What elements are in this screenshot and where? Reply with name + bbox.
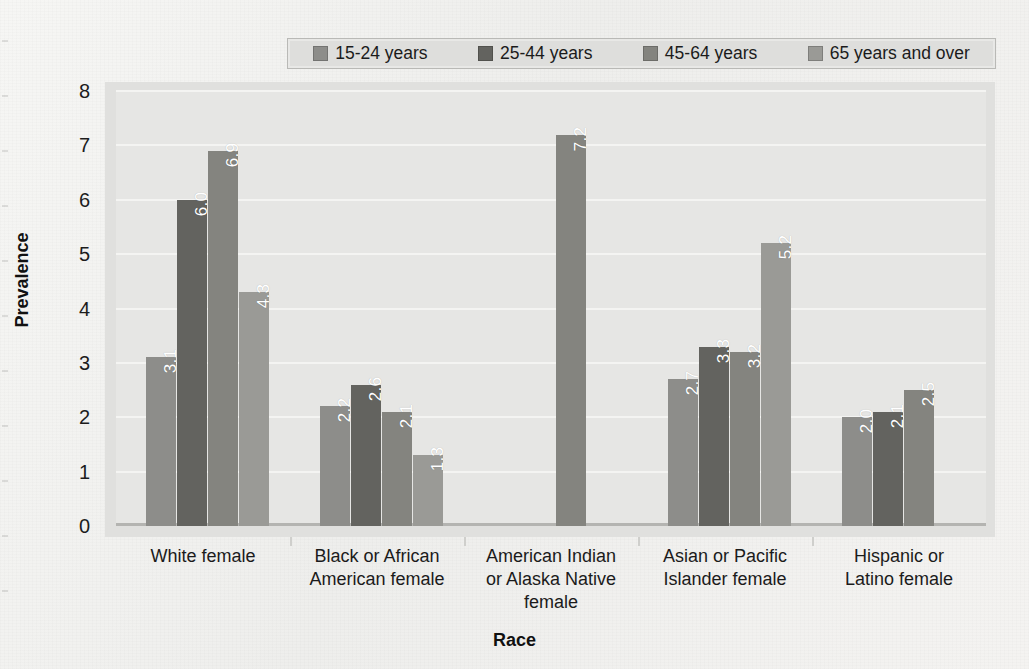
legend-label-45-64-years: 45-64 years [665, 43, 757, 64]
edge-mark [2, 95, 8, 97]
x-tick-line: Asian or Pacific [638, 545, 812, 568]
bars-layer: 3.16.06.94.32.22.62.11.37.22.73.33.25.22… [116, 91, 986, 526]
bar[interactable]: 1.3 [413, 455, 443, 526]
x-tick-line: or Alaska Native [464, 568, 638, 591]
y-tick-6: 6 [30, 188, 90, 211]
page-edge-marks [0, 0, 14, 669]
edge-mark [2, 535, 8, 537]
y-tick-0: 0 [30, 515, 90, 538]
bar[interactable]: 4.3 [239, 292, 269, 526]
x-tick-1: Black or AfricanAmerican female [290, 545, 464, 591]
bar[interactable]: 2.2 [320, 406, 350, 526]
x-tick-line: White female [116, 545, 290, 568]
legend-label-15-24-years: 15-24 years [335, 43, 427, 64]
x-tick-line: Latino female [812, 568, 986, 591]
x-axis-ticks: White femaleBlack or AfricanAmerican fem… [116, 545, 986, 625]
bar[interactable]: 2.6 [351, 385, 381, 526]
legend-item-1[interactable]: 25-44 years [478, 43, 592, 64]
bar[interactable]: 5.2 [761, 243, 791, 526]
edge-mark [2, 260, 8, 262]
legend-label-65-years-and-over: 65 years and over [830, 43, 970, 64]
bar[interactable]: 2.1 [382, 412, 412, 526]
bar-value-label: 2.6 [366, 376, 386, 401]
edge-mark [2, 315, 8, 317]
y-tick-3: 3 [30, 351, 90, 374]
x-tick-line: Islander female [638, 568, 812, 591]
y-tick-1: 1 [30, 460, 90, 483]
y-tick-2: 2 [30, 406, 90, 429]
legend-swatch-45-64-years [643, 46, 658, 61]
bar[interactable]: 2.1 [873, 412, 903, 526]
bar-value-label: 4.3 [254, 284, 274, 309]
bar-value-label: 7.2 [571, 126, 591, 151]
legend-label-25-44-years: 25-44 years [500, 43, 592, 64]
legend-swatch-65-years-and-over [808, 46, 823, 61]
y-tick-7: 7 [30, 134, 90, 157]
bar[interactable]: 3.1 [146, 357, 176, 526]
legend-swatch-25-44-years [478, 46, 493, 61]
x-tick-3: Asian or PacificIslander female [638, 545, 812, 591]
plot-area: 3.16.06.94.32.22.62.11.37.22.73.33.25.22… [105, 82, 995, 537]
edge-mark [2, 590, 8, 592]
legend-item-2[interactable]: 45-64 years [643, 43, 757, 64]
bar[interactable]: 3.3 [699, 347, 729, 526]
bar[interactable]: 2.5 [904, 390, 934, 526]
legend-item-3[interactable]: 65 years and over [808, 43, 970, 64]
y-tick-5: 5 [30, 243, 90, 266]
y-tick-4: 4 [30, 297, 90, 320]
legend-swatch-15-24-years [313, 46, 328, 61]
x-tick-2: American Indianor Alaska Nativefemale [464, 545, 638, 614]
bar-value-label: 5.2 [776, 235, 796, 260]
bar[interactable]: 2.7 [668, 379, 698, 526]
bar[interactable]: 6.9 [208, 151, 238, 526]
x-tick-line: Hispanic or [812, 545, 986, 568]
x-tick-line: female [464, 591, 638, 614]
x-tick-4: Hispanic orLatino female [812, 545, 986, 591]
bar[interactable]: 6.0 [177, 200, 207, 526]
x-tick-line: American female [290, 568, 464, 591]
edge-mark [2, 425, 8, 427]
bar-value-label: 2.1 [397, 404, 417, 429]
edge-mark [2, 150, 8, 152]
x-tick-line: American Indian [464, 545, 638, 568]
x-tick-0: White female [116, 545, 290, 568]
bar[interactable]: 3.2 [730, 352, 760, 526]
bar-value-label: 2.5 [919, 382, 939, 407]
edge-mark [2, 40, 8, 42]
edge-mark [2, 370, 8, 372]
bar[interactable]: 2.0 [842, 417, 872, 526]
legend-item-0[interactable]: 15-24 years [313, 43, 427, 64]
chart-legend: 15-24 years 25-44 years 45-64 years 65 y… [287, 38, 996, 69]
x-tick-line: Black or African [290, 545, 464, 568]
edge-mark [2, 480, 8, 482]
y-tick-8: 8 [30, 80, 90, 103]
bar-value-label: 6.9 [223, 143, 243, 168]
edge-mark [2, 205, 8, 207]
bar[interactable]: 7.2 [556, 135, 586, 527]
bar-value-label: 1.3 [428, 447, 448, 472]
x-axis-title: Race [0, 630, 1029, 651]
